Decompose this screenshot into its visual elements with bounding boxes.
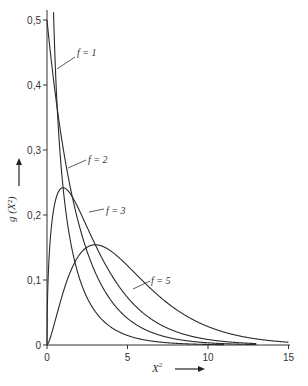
curve-f5 bbox=[47, 245, 289, 345]
y-tick-label: 0,3 bbox=[27, 145, 41, 156]
y-tick-label: 0,5 bbox=[27, 15, 41, 26]
arrow-right-icon bbox=[198, 366, 205, 372]
y-tick-label: 0 bbox=[35, 340, 41, 351]
label-f1: f = 1 bbox=[77, 47, 97, 58]
y-tick-label: 0,4 bbox=[27, 80, 41, 91]
curve-f3 bbox=[47, 188, 256, 345]
ticks: 05101500,10,20,30,40,5 bbox=[27, 15, 294, 363]
arrow-up-icon bbox=[16, 158, 22, 165]
svg-text:X2: X2 bbox=[151, 361, 163, 374]
curve-f2 bbox=[47, 20, 256, 345]
x-tick-label: 15 bbox=[283, 352, 295, 363]
label-f5: f = 5 bbox=[151, 275, 171, 286]
y-axis-title: g (X²) bbox=[5, 158, 22, 222]
y-tick-label: 0,1 bbox=[27, 275, 41, 286]
x-tick-label: 10 bbox=[202, 352, 214, 363]
axes bbox=[47, 10, 290, 345]
svg-text:g (X²): g (X²) bbox=[5, 196, 18, 222]
x-axis-title: X2 bbox=[151, 361, 205, 374]
label-f2: f = 2 bbox=[88, 154, 108, 165]
x-tick-label: 0 bbox=[44, 352, 50, 363]
curve-labels bbox=[57, 57, 150, 289]
y-tick-label: 0,2 bbox=[27, 210, 41, 221]
label-f3: f = 3 bbox=[106, 205, 126, 216]
x-tick-label: 5 bbox=[125, 352, 131, 363]
curves bbox=[47, 12, 289, 345]
curve-f1 bbox=[54, 12, 224, 344]
chi-square-density-chart: 05101500,10,20,30,40,5 f = 1 f = 2 f = 3… bbox=[0, 0, 308, 386]
